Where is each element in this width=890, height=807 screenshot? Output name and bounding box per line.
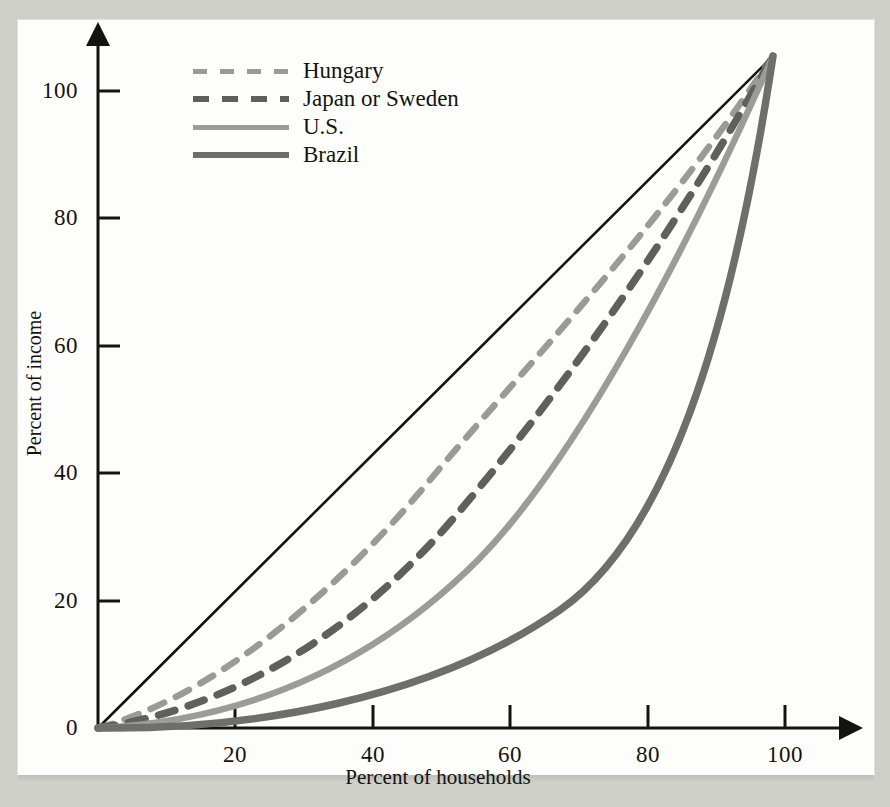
y-tick-label-100: 100 xyxy=(14,78,78,104)
y-tick-label-20: 20 xyxy=(14,588,78,614)
chart-legend: Hungary Japan or Sweden U.S. Brazil xyxy=(193,58,523,170)
legend-item-japan-or-sweden[interactable]: Japan or Sweden xyxy=(193,86,523,114)
legend-swatch-japan-or-sweden xyxy=(193,96,289,102)
y-tick-label-80: 80 xyxy=(14,205,78,231)
legend-label-hungary: Hungary xyxy=(303,58,383,84)
legend-swatch-brazil xyxy=(193,152,289,158)
legend-item-us[interactable]: U.S. xyxy=(193,114,523,142)
legend-item-brazil[interactable]: Brazil xyxy=(193,142,523,170)
legend-label-brazil: Brazil xyxy=(303,142,359,168)
figure-page: 100 80 60 40 20 0 20 40 60 80 100 Percen… xyxy=(0,0,890,807)
legend-swatch-hungary xyxy=(193,69,289,74)
legend-label-us: U.S. xyxy=(303,114,344,140)
y-tick-label-0: 0 xyxy=(14,715,78,741)
x-tick-label-100: 100 xyxy=(755,742,815,768)
legend-label-japan-or-sweden: Japan or Sweden xyxy=(303,86,459,112)
x-axis-title: Percent of households xyxy=(198,765,678,790)
y-axis-ticks xyxy=(98,91,120,601)
y-axis-title: Percent of income xyxy=(23,284,46,484)
legend-swatch-us xyxy=(193,125,289,130)
legend-item-hungary[interactable]: Hungary xyxy=(193,58,523,86)
